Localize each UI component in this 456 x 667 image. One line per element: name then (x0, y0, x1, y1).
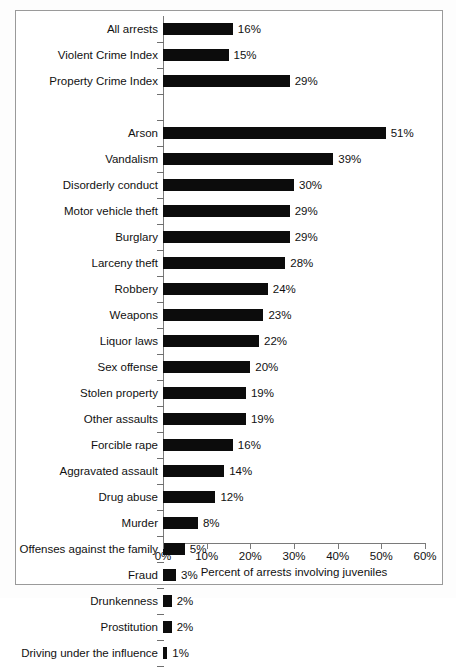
bar (163, 387, 246, 399)
x-axis-tick-label: 20% (230, 550, 270, 562)
bar-value-label: 24% (273, 276, 296, 302)
bar-category-label: Murder (122, 510, 158, 536)
bar-row: Drunkenness2% (0, 588, 456, 614)
bar-row: Stolen property19% (0, 380, 456, 406)
bar-value-label: 8% (203, 510, 220, 536)
bar-value-label: 28% (290, 250, 313, 276)
bar-row: Driving under the influence1% (0, 640, 456, 666)
bar (163, 127, 386, 139)
bar-category-label: Aggravated assault (60, 458, 158, 484)
bar-category-label: Robbery (115, 276, 158, 302)
bar-category-label: Disorderly conduct (63, 172, 158, 198)
bar (163, 179, 294, 191)
bar-category-label: Arson (128, 120, 158, 146)
bar-category-label: Driving under the influence (21, 640, 158, 666)
bar (163, 491, 215, 503)
bar-row: Sex offense20% (0, 354, 456, 380)
bar-category-label: Weapons (110, 302, 158, 328)
bar-value-label: 39% (338, 146, 361, 172)
bar-category-label: Drunkenness (90, 588, 158, 614)
bar (163, 283, 268, 295)
x-axis-tick (425, 543, 426, 549)
bar (163, 465, 224, 477)
x-axis-tick (250, 543, 251, 549)
bar (163, 595, 172, 607)
x-axis-tick-label: 50% (361, 550, 401, 562)
x-axis-tick (338, 543, 339, 549)
x-axis-tick (381, 543, 382, 549)
bar-category-label: Larceny theft (92, 250, 158, 276)
bar-value-label: 19% (251, 406, 274, 432)
bar-row: Violent Crime Index15% (0, 42, 456, 68)
bar-value-label: 1% (172, 640, 189, 666)
bar (163, 439, 233, 451)
bar-row: Burglary29% (0, 224, 456, 250)
bar-category-label: Vandalism (105, 146, 158, 172)
bar-row: Robbery24% (0, 276, 456, 302)
x-axis-tick (163, 543, 164, 549)
bar-value-label: 2% (177, 588, 194, 614)
bar-row: Drug abuse12% (0, 484, 456, 510)
bar-category-label: All arrests (107, 16, 158, 42)
bar (163, 205, 290, 217)
bar (163, 335, 259, 347)
bar-category-label: Prostitution (100, 614, 158, 640)
bar-category-label: Fraud (128, 562, 158, 588)
bar-category-label: Other assaults (84, 406, 158, 432)
bar-value-label: 51% (391, 120, 414, 146)
bar-value-label: 29% (295, 224, 318, 250)
bar-category-label: Drug abuse (99, 484, 158, 510)
bar-value-label: 2% (177, 614, 194, 640)
bar-category-label: Offenses against the family (20, 536, 159, 562)
bar (163, 49, 229, 61)
bar-category-label: Stolen property (80, 380, 158, 406)
bar-row: Murder8% (0, 510, 456, 536)
bar-value-label: 29% (295, 68, 318, 94)
bar (163, 75, 290, 87)
bar-row: Vandalism39% (0, 146, 456, 172)
y-axis-tick (157, 94, 164, 95)
x-axis-tick (207, 543, 208, 549)
bar-value-label: 16% (238, 432, 261, 458)
bar-value-label: 22% (264, 328, 287, 354)
bar-value-label: 14% (229, 458, 252, 484)
bar (163, 413, 246, 425)
bar-row: Larceny theft28% (0, 250, 456, 276)
bar-category-label: Violent Crime Index (58, 42, 158, 68)
bar (163, 517, 198, 529)
bar-category-label: Sex offense (97, 354, 158, 380)
bar-row: All arrests16% (0, 16, 456, 42)
x-axis-tick-label: 10% (187, 550, 227, 562)
bar (163, 309, 263, 321)
bar-value-label: 20% (255, 354, 278, 380)
x-axis-tick-label: 30% (274, 550, 314, 562)
bar-category-label: Burglary (115, 224, 158, 250)
bar-category-label: Forcible rape (91, 432, 158, 458)
bar-row: Prostitution2% (0, 614, 456, 640)
bar-value-label: 19% (251, 380, 274, 406)
bar-value-label: 23% (268, 302, 291, 328)
bar-row: Forcible rape16% (0, 432, 456, 458)
bar-row: Weapons23% (0, 302, 456, 328)
bar-row: Aggravated assault14% (0, 458, 456, 484)
bar-value-label: 16% (238, 16, 261, 42)
x-axis-tick (294, 543, 295, 549)
bar-value-label: 15% (234, 42, 257, 68)
bar-row: Arson51% (0, 120, 456, 146)
bar (163, 647, 167, 659)
bar (163, 621, 172, 633)
bar-row: Property Crime Index29% (0, 68, 456, 94)
bar (163, 153, 333, 165)
bar-value-label: 12% (220, 484, 243, 510)
x-axis-tick-label: 40% (318, 550, 358, 562)
bar-category-label: Property Crime Index (49, 68, 158, 94)
bar-category-label: Motor vehicle theft (64, 198, 158, 224)
bar-category-label: Liquor laws (100, 328, 158, 354)
x-axis-tick-label: 60% (405, 550, 445, 562)
bar-row: Liquor laws22% (0, 328, 456, 354)
bar-value-label: 29% (295, 198, 318, 224)
bar (163, 231, 290, 243)
bar (163, 257, 285, 269)
